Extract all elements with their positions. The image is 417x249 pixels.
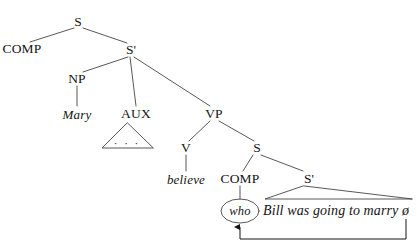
branch-slower-sbarlower: [261, 155, 303, 171]
node-sbar-upper: S': [126, 43, 136, 57]
branch-vp-s: [219, 121, 254, 141]
node-comp-lower: COMP: [220, 172, 259, 186]
node-sbar-lower: S': [304, 172, 314, 186]
node-who: who: [229, 205, 250, 218]
node-comp-top: COMP: [2, 42, 41, 56]
node-s-lower: S: [253, 141, 261, 155]
node-believe: believe: [167, 173, 205, 186]
node-vp: VP: [205, 107, 223, 121]
embedded-triangle: [265, 186, 412, 199]
branch-sbar-np: [83, 57, 128, 72]
branch-vp-v: [189, 121, 210, 141]
syntax-tree-diagram: S COMP S' NP Mary AUX VP V believe S COM…: [0, 0, 417, 249]
branch-s-comp: [30, 28, 74, 42]
wh-movement-arrow: [240, 219, 406, 239]
node-embedded-sentence: Bill was going to marry ø: [263, 204, 409, 218]
branch-sbar-vp: [134, 57, 210, 106]
aux-ellipsis-dots: · · ·: [114, 138, 141, 149]
branch-sbar-aux: [130, 57, 136, 106]
branch-s-sbar: [83, 28, 127, 43]
node-np: NP: [68, 72, 86, 86]
node-v: V: [181, 141, 191, 155]
node-s-top: S: [74, 15, 82, 29]
node-aux: AUX: [121, 107, 151, 121]
branch-slower-complower: [243, 155, 253, 171]
node-mary: Mary: [63, 108, 92, 121]
